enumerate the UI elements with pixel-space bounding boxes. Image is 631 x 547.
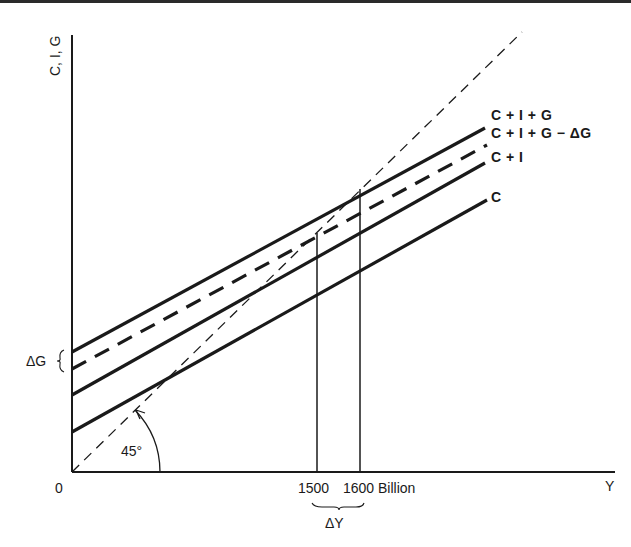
- delta-g-label: ΔG: [26, 353, 46, 369]
- x-tick-1600: 1600 Billion: [343, 480, 415, 496]
- curve-c-i-g-minus-dg: [72, 145, 487, 369]
- label-c: C: [491, 189, 502, 205]
- curve-c: [72, 200, 487, 432]
- delta-y-label: ΔY: [325, 515, 344, 531]
- origin-label: 0: [55, 480, 63, 496]
- curve-c-i: [72, 163, 485, 395]
- x-tick-1500: 1500: [298, 480, 329, 496]
- curve-c-i-g: [72, 128, 485, 352]
- label-c-i: C + I: [491, 149, 523, 165]
- label-c-i-g: C + I + G: [491, 107, 552, 123]
- delta-g-brace: [57, 350, 64, 372]
- label-c-i-g-minus-dg: C + I + G − ΔG: [491, 125, 592, 141]
- angle-arc: [135, 410, 160, 472]
- angle-label: 45°: [121, 443, 142, 459]
- angle-arrow-icon: [136, 410, 145, 419]
- delta-y-brace: [312, 503, 364, 510]
- diagram-canvas: [0, 0, 631, 547]
- forty-five-degree-line: [72, 32, 522, 472]
- x-axis-label: Y: [605, 478, 614, 494]
- y-axis-label: C, I, G: [47, 36, 63, 76]
